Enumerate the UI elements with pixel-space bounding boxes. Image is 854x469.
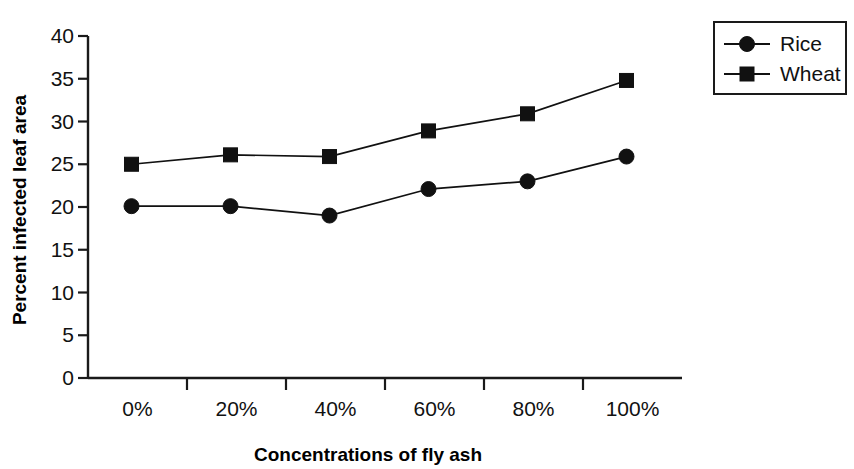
square-marker (224, 148, 238, 162)
x-axis-title: Concentrations of fly ash (254, 444, 482, 465)
square-marker (422, 124, 436, 138)
y-tick-label: 20 (51, 195, 74, 218)
series-rice (124, 149, 634, 223)
circle-marker (619, 149, 634, 164)
series-line-rice (132, 157, 627, 216)
y-tick-label: 40 (51, 24, 74, 47)
x-tick-label: 60% (413, 397, 455, 420)
data-series-group (124, 73, 634, 223)
legend-label: Rice (780, 32, 822, 55)
circle-marker (124, 199, 139, 214)
circle-marker (740, 37, 755, 52)
x-tick-marks (187, 378, 583, 390)
square-marker (740, 67, 754, 81)
square-marker (323, 150, 337, 164)
circle-marker (421, 182, 436, 197)
x-tick-label: 100% (606, 397, 660, 420)
legend-label: Wheat (780, 62, 841, 85)
square-marker (125, 157, 139, 171)
y-tick-label: 0 (62, 366, 74, 389)
x-tick-label: 80% (512, 397, 554, 420)
legend: RiceWheat (714, 22, 846, 94)
series-wheat (125, 73, 634, 171)
line-chart: Percent infected leaf area Concentration… (0, 0, 854, 469)
x-tick-label: 20% (215, 397, 257, 420)
y-tick-label: 35 (51, 67, 74, 90)
square-marker (521, 107, 535, 121)
x-tick-label: 40% (314, 397, 356, 420)
x-tick-labels: 0%20%40%60%80%100% (122, 397, 659, 420)
y-tick-label: 5 (62, 323, 74, 346)
y-tick-label: 30 (51, 110, 74, 133)
x-tick-label: 0% (122, 397, 152, 420)
series-line-wheat (132, 80, 627, 164)
y-tick-label: 10 (51, 281, 74, 304)
y-tick-marks (78, 36, 88, 378)
chart-container: Percent infected leaf area Concentration… (0, 0, 854, 469)
circle-marker (322, 208, 337, 223)
square-marker (620, 73, 634, 87)
y-tick-labels: 0510152025303540 (51, 24, 74, 389)
y-tick-label: 15 (51, 238, 74, 261)
y-tick-label: 25 (51, 152, 74, 175)
y-axis-title: Percent infected leaf area (9, 94, 30, 325)
circle-marker (223, 199, 238, 214)
circle-marker (520, 174, 535, 189)
